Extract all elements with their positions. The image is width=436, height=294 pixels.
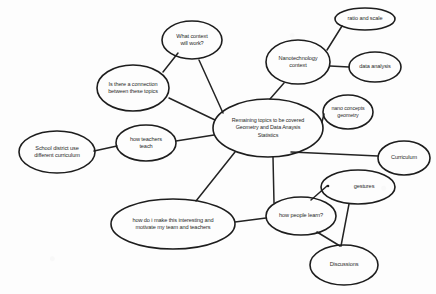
node-label-how-teachers-teach: teach bbox=[139, 143, 152, 149]
node-curriculum[interactable]: Curriculum bbox=[378, 141, 430, 175]
edge-people-learn-to-discussions bbox=[317, 232, 340, 246]
node-label-is-there-connection: Is there a connection bbox=[109, 81, 158, 87]
bullet-icon bbox=[327, 185, 330, 188]
node-label-is-there-connection: between these topics bbox=[108, 88, 158, 94]
node-label-nanotechnology: context bbox=[289, 62, 307, 68]
node-is-there-connection[interactable]: Is there a connectionbetween these topic… bbox=[97, 65, 169, 111]
node-school-district[interactable]: School district usedifferent curriculum bbox=[19, 131, 95, 173]
edge-center-to-motivate bbox=[196, 152, 235, 201]
edge-motivate-to-people-learn bbox=[235, 218, 266, 222]
node-label-school-district: School district use bbox=[35, 145, 79, 151]
node-label-what-context: will work? bbox=[179, 40, 203, 46]
node-how-do-i-make[interactable]: how do i make this interesting andmotiva… bbox=[111, 199, 235, 249]
node-discussions[interactable]: Discussions bbox=[310, 245, 378, 285]
node-label-curriculum: Curriculum bbox=[391, 154, 417, 160]
node-how-teachers-teach[interactable]: how teachersteach bbox=[116, 125, 176, 161]
edge-nanotech-to-ratio bbox=[327, 26, 342, 50]
node-what-context[interactable]: What contextwill work? bbox=[162, 21, 222, 59]
node-label-gestures: gestures bbox=[354, 183, 375, 189]
node-center[interactable]: Remaining topics to be coveredGeometry a… bbox=[213, 99, 323, 157]
node-label-how-teachers-teach: how teachers bbox=[130, 136, 162, 142]
node-label-center: Geometry and Data Anaysis bbox=[236, 124, 301, 130]
node-label-center: Remaining topics to be covered bbox=[232, 117, 305, 123]
node-label-discussions: Discussions bbox=[330, 261, 359, 267]
node-how-people-learn[interactable]: how people learn? bbox=[266, 197, 336, 235]
node-label-ratio-and-scale: ratio and scale bbox=[348, 15, 383, 21]
concept-map-canvas: Remaining topics to be coveredGeometry a… bbox=[0, 0, 436, 294]
edge-center-to-how-teachers bbox=[176, 135, 214, 141]
edge-center-to-connection bbox=[169, 98, 215, 120]
node-ratio-and-scale[interactable]: ratio and scale bbox=[335, 8, 395, 30]
node-label-school-district: different curriculum bbox=[34, 152, 80, 158]
node-layer: Remaining topics to be coveredGeometry a… bbox=[19, 8, 430, 285]
node-gestures[interactable]: gestures bbox=[321, 170, 395, 204]
node-label-nano-concepts: nano concepts bbox=[331, 105, 365, 111]
edge-center-to-what-context bbox=[199, 60, 223, 113]
concept-map-svg: Remaining topics to be coveredGeometry a… bbox=[0, 0, 436, 294]
node-data-analysis[interactable]: data analysis bbox=[349, 52, 401, 82]
node-label-what-context: What context bbox=[176, 33, 208, 39]
node-label-how-do-i-make: how do i make this interesting and bbox=[132, 217, 213, 223]
edge-gestures-to-discussions bbox=[341, 204, 349, 246]
node-nano-concepts[interactable]: nano conceptsgeometry bbox=[323, 95, 373, 129]
node-nanotechnology[interactable]: Nanotechnologycontext bbox=[266, 40, 330, 84]
edge-center-to-gestures bbox=[273, 157, 274, 203]
node-label-nanotechnology: Nanotechnology bbox=[278, 55, 317, 61]
node-label-center: Statistics bbox=[258, 132, 279, 138]
node-label-how-do-i-make: motivate my team and teachers bbox=[135, 224, 210, 230]
node-label-nano-concepts: geometry bbox=[337, 112, 359, 118]
edge-teachers-to-district bbox=[94, 146, 117, 151]
node-label-how-people-learn: how people learn? bbox=[279, 212, 323, 218]
edge-center-to-curriculum bbox=[291, 152, 378, 156]
node-label-data-analysis: data analysis bbox=[359, 63, 391, 69]
edge-center-to-nanotech bbox=[270, 83, 284, 99]
edge-nanotech-to-data bbox=[330, 66, 349, 67]
